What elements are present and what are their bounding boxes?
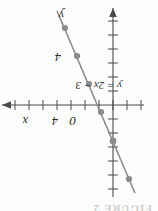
equation-label: y = 2x − 3 [75, 80, 122, 91]
figure-container: FIGURE 2 [0, 0, 158, 211]
rotated-figure-plate: FIGURE 2 [0, 0, 158, 211]
y-axis-group [108, 8, 118, 197]
function-line [57, 11, 135, 193]
x-tick-label-4: 4 [52, 115, 58, 127]
origin-label: 0 [70, 115, 77, 128]
x-axis-arrow-icon [2, 101, 11, 109]
y-axis-arrow-icon [109, 8, 117, 17]
data-point [110, 138, 117, 145]
data-point [98, 109, 104, 115]
x-axis-label: x [23, 115, 28, 127]
x-axis-group [2, 100, 144, 110]
data-point [62, 25, 68, 31]
function-line-group [57, 11, 135, 193]
data-point [74, 53, 80, 59]
data-point [126, 176, 132, 182]
y-tick-label-4: 4 [55, 51, 61, 63]
y-axis-label: y [59, 9, 64, 21]
coordinate-plane [0, 0, 158, 211]
